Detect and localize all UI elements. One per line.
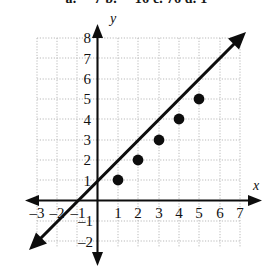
x-tick-labels: –3 –2 –1 1 2 3 4 5 6 7 bbox=[29, 205, 245, 221]
y-tick-label: 3 bbox=[84, 132, 92, 148]
x-tick-label: 2 bbox=[134, 205, 142, 221]
x-tick-label: –2 bbox=[49, 205, 65, 221]
coordinate-plane: 8 7 6 5 4 3 2 1 –1 –2 –3 –2 –1 1 2 3 4 5 bbox=[0, 10, 273, 267]
data-point bbox=[194, 94, 205, 105]
worksheet-figure: a. —7 b. —16 c. 76 d. 1 bbox=[0, 0, 273, 267]
x-tick-label: –3 bbox=[29, 205, 45, 221]
data-points bbox=[113, 94, 205, 186]
graph-svg: 8 7 6 5 4 3 2 1 –1 –2 –3 –2 –1 1 2 3 4 5 bbox=[0, 10, 273, 267]
answer-choices-text: a. —7 b. —16 c. 76 d. 1 bbox=[0, 0, 273, 7]
y-tick-label: 4 bbox=[84, 112, 92, 128]
y-tick-label: 7 bbox=[84, 51, 92, 67]
x-tick-label: 4 bbox=[175, 205, 183, 221]
x-axis-arrow-right bbox=[248, 195, 262, 206]
y-tick-label: 5 bbox=[84, 91, 92, 107]
data-point bbox=[154, 135, 165, 146]
y-axis-label: y bbox=[108, 11, 117, 26]
x-tick-label: 3 bbox=[155, 205, 163, 221]
data-point bbox=[113, 175, 124, 186]
y-axis bbox=[92, 24, 103, 266]
x-tick-label: 7 bbox=[236, 205, 244, 221]
y-tick-label: –2 bbox=[77, 234, 93, 250]
answer-choices-clipped: a. —7 b. —16 c. 76 d. 1 bbox=[0, 0, 273, 10]
y-tick-label: 2 bbox=[84, 152, 92, 168]
y-tick-label: 1 bbox=[84, 173, 92, 189]
data-point bbox=[133, 155, 144, 166]
x-tick-label: 5 bbox=[195, 205, 203, 221]
y-axis-arrow-down bbox=[92, 252, 103, 266]
y-tick-label: 6 bbox=[84, 71, 92, 87]
x-tick-label: 1 bbox=[114, 205, 122, 221]
y-axis-arrow-up bbox=[92, 24, 103, 38]
y-tick-label: 8 bbox=[84, 30, 92, 46]
x-axis-label: x bbox=[252, 178, 260, 193]
x-tick-label: 6 bbox=[216, 205, 224, 221]
x-tick-label: –1 bbox=[70, 205, 86, 221]
data-point bbox=[174, 114, 185, 125]
